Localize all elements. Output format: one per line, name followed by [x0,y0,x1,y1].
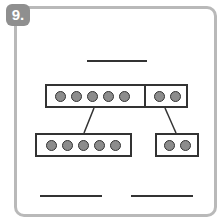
connector-lines [0,0,222,223]
counter-dot [62,140,73,151]
counter-dot [180,140,191,151]
counter-dot [94,140,105,151]
counter-dot [164,140,175,151]
counter-dot [110,140,121,151]
part-answer-line-left[interactable] [40,195,102,197]
counter-dot [46,140,57,151]
part-answer-line-right[interactable] [131,195,193,197]
part-box-left [35,133,132,157]
counter-dot [78,140,89,151]
part-box-right [155,133,199,157]
